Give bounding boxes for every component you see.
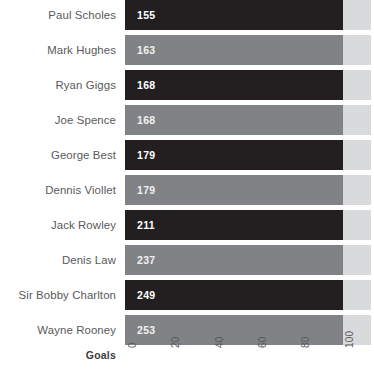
bar-track: 211 [125, 210, 371, 240]
bar[interactable]: 168 [125, 70, 343, 100]
chart-row: Ryan Giggs 168 [0, 70, 374, 100]
bar-value-label: 168 [137, 105, 155, 135]
row-label: Dennis Viollet [0, 175, 116, 205]
bar-track: 237 [125, 245, 371, 275]
x-axis-title: Goals [0, 349, 116, 361]
bar-track: 253 [125, 315, 371, 345]
row-label: Sir Bobby Charlton [0, 280, 116, 310]
row-label: Paul Scholes [0, 0, 116, 30]
row-label: George Best [0, 140, 116, 170]
bar-value-label: 211 [137, 210, 155, 240]
row-label: Jack Rowley [0, 210, 116, 240]
bar[interactable]: 249 [125, 280, 343, 310]
bar-value-label: 179 [137, 175, 155, 205]
bar-value-label: 179 [137, 140, 155, 170]
row-label: Denis Law [0, 245, 116, 275]
row-label: Ryan Giggs [0, 70, 116, 100]
bar[interactable]: 211 [125, 210, 343, 240]
bar[interactable]: 179 [125, 140, 343, 170]
row-label: Mark Hughes [0, 35, 116, 65]
bar[interactable]: 237 [125, 245, 343, 275]
bar-value-label: 253 [137, 315, 155, 345]
bar-track: 179 [125, 175, 371, 205]
bar[interactable]: 155 [125, 0, 343, 30]
chart-row: Jack Rowley 211 [0, 210, 374, 240]
bar-track: 163 [125, 35, 371, 65]
chart-row: George Best 179 [0, 140, 374, 170]
chart-row: Dennis Viollet 179 [0, 175, 374, 205]
chart-row: Paul Scholes 155 [0, 0, 374, 30]
bar-value-label: 168 [137, 70, 155, 100]
plot-area: Paul Scholes 155 Mark Hughes 163 Ryan Gi… [0, 0, 374, 346]
bar-track: 249 [125, 280, 371, 310]
row-label: Joe Spence [0, 105, 116, 135]
bar-track: 155 [125, 0, 371, 30]
bar[interactable]: 168 [125, 105, 343, 135]
bar[interactable]: 179 [125, 175, 343, 205]
bar-value-label: 237 [137, 245, 155, 275]
chart-row: Sir Bobby Charlton 249 [0, 280, 374, 310]
chart-row: Mark Hughes 163 [0, 35, 374, 65]
bar[interactable]: 163 [125, 35, 343, 65]
row-label: Wayne Rooney [0, 315, 116, 345]
x-axis: Goals 0 20 40 60 80 100 [0, 346, 374, 390]
chart-row: Wayne Rooney 253 [0, 315, 374, 345]
bar-chart: Paul Scholes 155 Mark Hughes 163 Ryan Gi… [0, 0, 374, 390]
bar-value-label: 249 [137, 280, 155, 310]
bar-value-label: 155 [137, 0, 155, 30]
chart-row: Joe Spence 168 [0, 105, 374, 135]
bar-track: 168 [125, 70, 371, 100]
chart-row: Denis Law 237 [0, 245, 374, 275]
bar-track: 168 [125, 105, 371, 135]
bar-track: 179 [125, 140, 371, 170]
bar-value-label: 163 [137, 35, 155, 65]
